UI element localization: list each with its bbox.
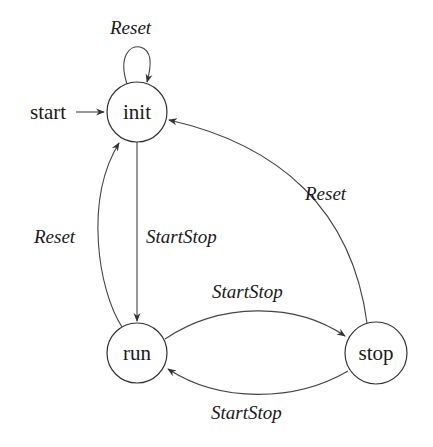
node-label: init: [123, 100, 151, 124]
edge-run-init: [98, 143, 122, 327]
edge-label-run-stop: StartStop: [212, 281, 283, 302]
edge-label-run-init: Reset: [33, 226, 76, 247]
edge-label-init-init: Reset: [109, 17, 152, 38]
node-init: init: [107, 82, 167, 142]
state-diagram: start Reset StartStop Reset StartStop St…: [0, 0, 433, 447]
node-label: stop: [358, 341, 393, 365]
node-label: run: [123, 341, 151, 365]
edge-label-stop-init: Reset: [304, 183, 347, 204]
edge-label-init-run: StartStop: [146, 226, 217, 247]
edge-stop-run: [168, 369, 348, 394]
node-stop: stop: [345, 322, 407, 384]
edge-label-stop-run: StartStop: [211, 402, 282, 423]
edge-run-stop: [165, 311, 345, 339]
start-label: start: [30, 100, 66, 124]
node-run: run: [107, 323, 167, 383]
edge-init-init: [124, 47, 150, 84]
